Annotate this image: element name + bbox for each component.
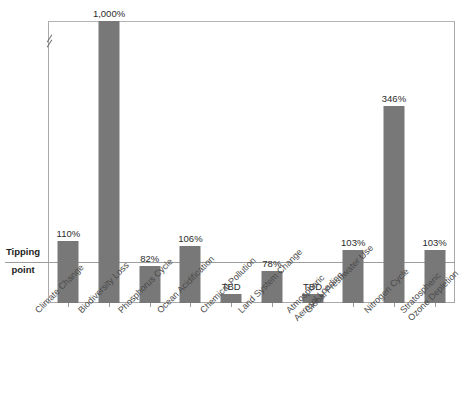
tipping-point-label-line2: point — [0, 261, 46, 279]
bar-value-global-freshwater-use: 103% — [341, 237, 365, 248]
x-tick — [353, 303, 354, 307]
x-tick — [109, 303, 110, 307]
bar-biodiversity-loss[interactable] — [99, 21, 120, 303]
bar-slot: 103% — [414, 21, 455, 303]
tipping-point-label: Tipping point — [0, 243, 46, 279]
tipping-point-label-line1: Tipping — [6, 246, 40, 257]
x-tick — [272, 303, 273, 307]
bar-slot: 346% — [374, 21, 415, 303]
x-tick — [190, 303, 191, 307]
bar-value-phosphorus-cycle: 82% — [140, 253, 159, 264]
x-tick — [68, 303, 69, 307]
bar-chart: Tipping point 110% 1,000% 82% 106% TBD 7… — [0, 0, 468, 405]
bar-value-climate-change: 110% — [57, 228, 81, 239]
x-tick — [231, 303, 232, 307]
bar-value-nitrogen-cycle: 346% — [382, 93, 406, 104]
bar-slot: 110% — [48, 21, 89, 303]
bar-slot: TBD — [292, 21, 333, 303]
bar-value-biodiversity-loss: 1,000% — [93, 8, 125, 19]
bar-value-ocean-acidification: 106% — [178, 233, 202, 244]
x-tick — [394, 303, 395, 307]
x-tick — [435, 303, 436, 307]
bar-value-stratospheric-ozone-depletion: 103% — [422, 237, 446, 248]
x-tick — [150, 303, 151, 307]
